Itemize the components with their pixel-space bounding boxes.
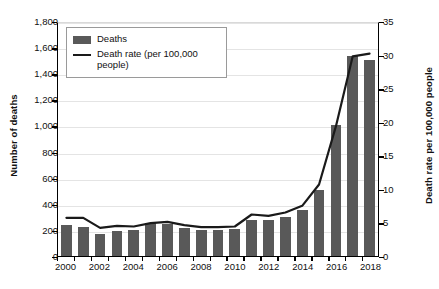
x-axis-tick-mark — [176, 257, 177, 261]
bar — [229, 229, 240, 256]
bar-column — [277, 23, 294, 256]
x-axis-tick-mark — [277, 257, 278, 261]
bar — [128, 230, 139, 256]
y-axis-right-tick-mark — [379, 56, 384, 57]
bar-column — [260, 23, 277, 256]
bar-column — [344, 23, 361, 256]
y-axis-right-tick-label: 15 — [383, 151, 413, 161]
x-axis-tick-mark — [125, 257, 126, 261]
chart-legend: Deaths Death rate (per 100,000 people) — [66, 27, 227, 78]
bar — [213, 230, 224, 256]
y-axis-right-tick-mark — [379, 123, 384, 124]
y-axis-right-tick-label: 20 — [383, 118, 413, 128]
bar — [297, 210, 308, 256]
x-axis-tick-mark — [294, 257, 295, 261]
x-axis-tick-label: 2018 — [351, 262, 391, 272]
legend-label-deaths: Deaths — [97, 33, 127, 45]
legend-item-death-rate: Death rate (per 100,000 people) — [73, 48, 220, 71]
bar-column — [243, 23, 260, 256]
bar-column — [361, 23, 378, 256]
x-axis-tick-mark — [57, 257, 58, 261]
bar — [314, 190, 325, 256]
y-axis-right-tick-label: 10 — [383, 185, 413, 195]
bar-column — [294, 23, 311, 256]
x-axis-tick-mark — [142, 257, 143, 261]
x-axis-tick-mark — [311, 257, 312, 261]
bar — [364, 60, 375, 256]
x-axis-tick-mark — [91, 257, 92, 261]
bar — [196, 230, 207, 256]
legend-item-deaths: Deaths — [73, 33, 220, 45]
y-axis-right-tick-label: 35 — [383, 17, 413, 27]
x-axis-tick-mark — [210, 257, 211, 261]
x-axis-tick-mark — [159, 257, 160, 261]
bar — [347, 56, 358, 256]
y-axis-right-title: Death rate per 100,000 people — [423, 46, 434, 226]
bar — [78, 227, 89, 256]
bar — [331, 125, 342, 256]
x-axis-tick-mark — [193, 257, 194, 261]
x-axis-tick-mark — [243, 257, 244, 261]
x-axis-tick-mark — [74, 257, 75, 261]
y-axis-right-tick-label: 5 — [383, 218, 413, 228]
bar — [263, 220, 274, 256]
legend-label-death-rate: Death rate (per 100,000 people) — [97, 48, 220, 71]
y-axis-right-tick-label: 0 — [383, 252, 413, 262]
bar — [280, 217, 291, 256]
y-axis-right-tick-mark — [379, 22, 384, 23]
y-axis-right-tick-mark — [379, 257, 384, 258]
legend-bar-swatch-icon — [73, 36, 91, 44]
y-axis-right-tick-label: 30 — [383, 51, 413, 61]
y-axis-right-tick-mark — [379, 89, 384, 90]
bar — [145, 223, 156, 256]
bar — [179, 228, 190, 256]
bar-column — [311, 23, 328, 256]
x-axis-tick-mark — [345, 257, 346, 261]
x-axis-tick-mark — [328, 257, 329, 261]
y-axis-right-tick-label: 25 — [383, 84, 413, 94]
bar — [95, 234, 106, 256]
bar — [112, 231, 123, 256]
y-axis-right-tick-mark — [379, 156, 384, 157]
bar-column — [328, 23, 345, 256]
bar — [162, 224, 173, 256]
y-axis-right-tick-mark — [379, 190, 384, 191]
x-axis-tick-mark — [362, 257, 363, 261]
chart-figure: Number of deaths Death rate per 100,000 … — [0, 0, 439, 289]
x-axis-tick-mark — [226, 257, 227, 261]
bar-column — [226, 23, 243, 256]
legend-line-swatch-icon — [73, 50, 91, 60]
bar — [61, 225, 72, 256]
y-axis-right-tick-mark — [379, 223, 384, 224]
bar — [246, 220, 257, 256]
x-axis-tick-mark — [260, 257, 261, 261]
x-axis-tick-mark — [108, 257, 109, 261]
